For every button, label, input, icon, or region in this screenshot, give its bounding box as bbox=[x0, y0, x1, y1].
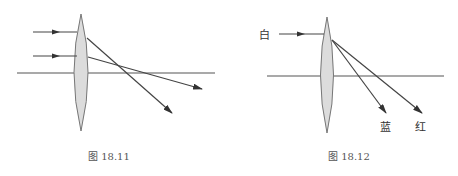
incident-ray-top bbox=[33, 30, 77, 35]
diagram-canvas: 图 18.11 白 蓝 红 图 18.12 bbox=[0, 0, 458, 176]
figure-caption: 图 18.11 bbox=[88, 151, 130, 162]
red-label: 红 bbox=[415, 121, 426, 134]
arrow-icon bbox=[297, 32, 305, 37]
figure-caption: 图 18.12 bbox=[328, 151, 370, 162]
figure-18-11: 图 18.11 bbox=[17, 14, 215, 162]
white-light-label: 白 bbox=[259, 28, 270, 42]
incident-ray-bottom bbox=[33, 54, 77, 59]
blue-label: 蓝 bbox=[380, 121, 391, 134]
figure-18-12: 白 蓝 红 图 18.12 bbox=[259, 17, 444, 162]
arrow-icon bbox=[52, 30, 60, 35]
arrow-icon bbox=[52, 54, 60, 59]
refracted-ray-top bbox=[87, 38, 172, 113]
incident-white-ray bbox=[279, 32, 324, 37]
